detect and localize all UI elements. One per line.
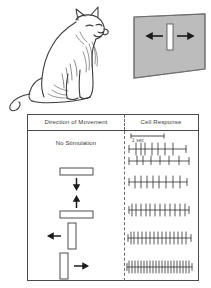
table-row <box>28 251 198 281</box>
stimulus-cell-no-stimulation: No Stimulation <box>28 131 124 165</box>
response-cell-upward <box>124 193 198 221</box>
stimulus-cell-leftward <box>28 221 124 251</box>
illustration-panel <box>0 0 211 112</box>
response-cell-leftward <box>124 221 198 251</box>
arrow-up-icon <box>74 197 79 209</box>
arrow-down-icon <box>74 178 79 190</box>
stimulus-screen <box>131 12 207 84</box>
cat-illustration <box>8 2 124 112</box>
table-row <box>28 193 198 221</box>
table-header-row: Direction of Movement Cell Response <box>28 115 198 131</box>
arrow-right-icon <box>74 264 88 269</box>
stimulus-cell-rightward <box>28 251 124 281</box>
column-header-response: Cell Response <box>124 115 198 130</box>
arrow-left-icon <box>49 234 62 239</box>
table-row <box>28 221 198 251</box>
table-body: 1 sec No Stimulation <box>28 131 198 281</box>
table-row <box>28 165 198 193</box>
table-row: No Stimulation <box>28 131 198 165</box>
stimulus-cell-downward <box>28 165 124 193</box>
column-header-direction: Direction of Movement <box>28 115 124 130</box>
response-table: Direction of Movement Cell Response 1 se… <box>27 114 199 281</box>
response-cell-baseline <box>124 131 198 165</box>
no-stimulation-label: No Stimulation <box>28 140 124 146</box>
header-column-divider <box>124 115 125 130</box>
stimulus-cell-upward <box>28 193 124 221</box>
response-cell-rightward <box>124 251 198 281</box>
response-cell-downward <box>124 165 198 193</box>
